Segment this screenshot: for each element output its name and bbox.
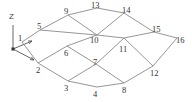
edge-7-8 (96, 64, 124, 83)
node-label-5: 5 (37, 21, 41, 31)
edge-10-11 (97, 35, 124, 38)
node-label-3: 3 (64, 83, 68, 93)
edge-2-3 (38, 63, 68, 81)
edge-6-7 (67, 46, 96, 64)
node-label-12: 12 (150, 68, 159, 78)
node-label-11: 11 (119, 44, 127, 54)
edge-9-10 (68, 15, 97, 35)
edge-1-5 (22, 30, 40, 42)
edge-5-9 (40, 15, 68, 30)
origin-marker-icon (12, 48, 15, 51)
node-label-2: 2 (36, 65, 40, 75)
truss-diagram: Z 12345678910111213141516 (0, 0, 192, 102)
node-label-9: 9 (64, 6, 68, 16)
node-label-13: 13 (91, 0, 100, 10)
edge-14-15 (124, 13, 154, 32)
edge-11-15 (124, 32, 154, 38)
node-label-15: 15 (152, 24, 161, 34)
node-label-4: 4 (93, 89, 98, 99)
edge-5-10 (40, 30, 97, 35)
edge-2-6 (38, 46, 67, 63)
edge-3-7 (68, 64, 96, 81)
node-label-6: 6 (64, 48, 68, 58)
edge-3-4 (68, 81, 97, 87)
edge-14-10 (97, 13, 124, 35)
edge-12-16 (153, 38, 177, 66)
edge-8-12 (124, 66, 153, 83)
edge-4-8 (97, 83, 124, 87)
edge-11-12 (124, 38, 153, 66)
node-label-8: 8 (122, 85, 126, 95)
z-axis-label: Z (9, 12, 14, 21)
edge-13-14 (97, 8, 124, 13)
y-axis-arrow (13, 49, 34, 60)
node-label-16: 16 (176, 35, 185, 45)
node-label-1: 1 (18, 33, 22, 43)
node-labels: 12345678910111213141516 (18, 0, 185, 99)
node-label-10: 10 (90, 35, 99, 45)
node-label-14: 14 (122, 5, 131, 15)
node-label-7: 7 (93, 57, 97, 67)
